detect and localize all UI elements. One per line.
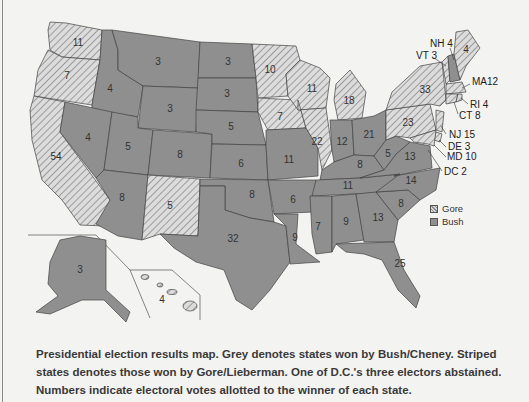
label-AR: 6 <box>290 194 296 205</box>
label-MN: 10 <box>264 64 276 75</box>
legend-label-gore: Gore <box>442 203 463 214</box>
legend-item-bush: Bush <box>430 215 464 228</box>
label-SD: 3 <box>224 88 230 99</box>
state-CT <box>446 94 458 104</box>
legend-item-gore: Gore <box>430 202 464 215</box>
label-AK: 3 <box>77 264 83 275</box>
state-FL <box>336 242 420 308</box>
label-NC: 14 <box>405 175 417 186</box>
callout-MD: MD 10 <box>447 151 477 162</box>
label-MS: 7 <box>315 221 321 232</box>
label-VA: 13 <box>404 151 416 162</box>
label-WY: 3 <box>167 103 173 114</box>
label-CO: 8 <box>177 149 183 160</box>
label-ME: 4 <box>463 44 469 55</box>
state-HI <box>141 275 197 312</box>
caption-line-3: Numbers indicate electoral votes allotte… <box>36 381 526 399</box>
callout-VT: VT 3 <box>416 50 437 61</box>
label-WI: 11 <box>307 83 318 94</box>
label-MT: 3 <box>155 56 161 67</box>
label-TN: 11 <box>343 180 354 191</box>
label-HI: 4 <box>159 294 165 305</box>
label-NV: 4 <box>85 132 91 143</box>
label-SC: 8 <box>398 198 404 209</box>
state-MA <box>446 82 466 94</box>
label-WA: 11 <box>73 37 84 48</box>
label-WV: 5 <box>385 148 391 159</box>
callout-MA: MA12 <box>472 76 499 87</box>
label-NM: 5 <box>167 200 173 211</box>
label-OR: 7 <box>64 70 70 81</box>
label-KS: 6 <box>238 158 244 169</box>
label-ND: 3 <box>225 56 231 67</box>
label-AZ: 8 <box>119 192 125 203</box>
label-TX: 32 <box>227 233 239 244</box>
label-AL: 9 <box>343 216 349 227</box>
state-MS <box>310 196 332 254</box>
callout-RI: RI 4 <box>470 99 489 110</box>
callout-NJ: NJ 15 <box>449 129 476 140</box>
label-CA: 54 <box>50 151 62 162</box>
label-NY: 33 <box>419 84 431 95</box>
map-caption: Presidential election results map. Grey … <box>36 345 526 399</box>
label-GA: 13 <box>372 212 384 223</box>
caption-line-2: states denotes those won by Gore/Lieberm… <box>36 363 526 381</box>
label-LA: 9 <box>292 232 298 243</box>
striped-swatch-icon <box>430 205 438 213</box>
state-NY <box>386 62 446 110</box>
callout-CT: CT 8 <box>459 110 481 121</box>
label-MO: 11 <box>284 154 295 165</box>
label-IA: 7 <box>277 111 283 122</box>
label-IN: 12 <box>336 136 348 147</box>
label-PA: 23 <box>402 117 414 128</box>
label-MI: 18 <box>343 95 355 106</box>
grey-swatch-icon <box>430 218 438 226</box>
legend-label-bush: Bush <box>442 216 464 227</box>
label-FL: 25 <box>394 258 406 269</box>
label-KY: 8 <box>357 159 363 170</box>
label-OK: 8 <box>249 189 255 200</box>
callout-DC: DC 2 <box>444 166 467 177</box>
label-UT: 5 <box>125 141 131 152</box>
state-AK <box>36 236 130 322</box>
us-election-map: 11 7 54 4 4 3 3 5 8 8 5 3 3 5 6 8 32 10 … <box>0 0 529 340</box>
map-legend: Gore Bush <box>430 202 464 228</box>
label-NE: 5 <box>228 121 234 132</box>
callout-NH: NH 4 <box>430 38 453 49</box>
label-ID: 4 <box>107 83 113 94</box>
caption-line-1: Presidential election results map. Grey … <box>36 345 526 363</box>
label-IL: 22 <box>311 136 323 147</box>
label-OH: 21 <box>363 129 375 140</box>
